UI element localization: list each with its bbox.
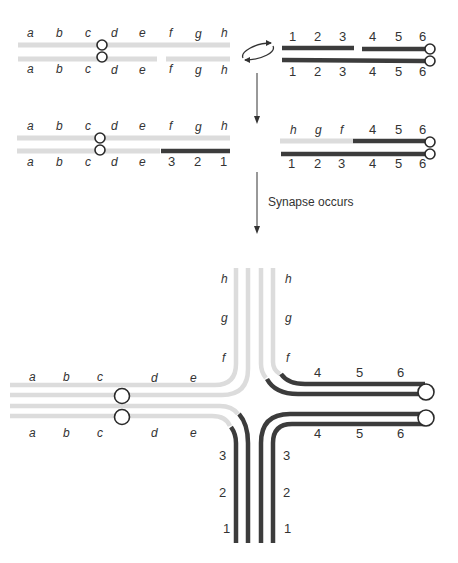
gene-label: f — [340, 123, 345, 137]
gene-label: 1 — [220, 154, 227, 169]
gene-label: b — [56, 155, 63, 169]
gene-label: 3 — [339, 64, 346, 79]
chromosome-strand — [261, 268, 266, 378]
stage3-synapsis-cross — [10, 268, 434, 543]
gene-label: e — [139, 119, 146, 133]
centromere-icon — [95, 145, 105, 155]
translocation-synapse-diagram: a b c d e f g h a b c d e f g h — [0, 0, 458, 563]
gene-label: 2 — [194, 154, 201, 169]
gene-label: e — [190, 426, 197, 440]
gene-label: h — [285, 272, 292, 286]
gene-label: a — [29, 370, 36, 384]
chromosome-strand — [273, 268, 280, 374]
gene-label: 5 — [356, 365, 363, 380]
gene-label: e — [139, 26, 146, 40]
gene-label: g — [195, 63, 202, 77]
gene-label: 6 — [419, 64, 426, 79]
gene-label: c — [85, 62, 91, 76]
gene-label: c — [85, 26, 91, 40]
stage1-left-chromosome-pair: a b c d e f g h a b c d e f g h — [18, 26, 230, 77]
gene-label: d — [111, 63, 118, 77]
gene-label: g — [195, 27, 202, 41]
gene-label: 5 — [395, 122, 402, 137]
stage2-left-chromosome-pair: a b c d e f g h a b c d e 3 2 1 — [17, 119, 230, 169]
chromosome-strand — [10, 268, 236, 385]
gene-label: 2 — [314, 156, 321, 171]
gene-label: f — [169, 26, 174, 40]
gene-label: 5 — [395, 156, 402, 171]
gene-label: 5 — [356, 426, 363, 441]
centromere-icon — [115, 410, 130, 425]
centromere-icon — [95, 133, 105, 143]
gene-label: b — [63, 370, 70, 384]
gene-label: c — [97, 426, 103, 440]
gene-label: g — [285, 311, 292, 325]
stage2-right-chromosome-pair: h g f 4 5 6 1 2 3 4 5 6 — [280, 122, 435, 171]
gene-label: 4 — [314, 426, 321, 441]
gene-label: 5 — [395, 29, 402, 44]
gene-label: c — [85, 119, 91, 133]
centromere-icon — [97, 52, 107, 62]
gene-label: e — [139, 63, 146, 77]
centromere-icon — [425, 137, 435, 147]
gene-label: b — [56, 119, 63, 133]
gene-label: 4 — [314, 365, 321, 380]
gene-label: 3 — [219, 448, 226, 463]
centromere-icon — [425, 56, 435, 66]
gene-label: a — [27, 26, 34, 40]
gene-label: 4 — [369, 64, 376, 79]
circular-exchange-arrows-icon — [243, 40, 274, 63]
gene-label: b — [63, 426, 70, 440]
chromosome-strand — [273, 424, 425, 543]
gene-label: 6 — [419, 122, 426, 137]
gene-label: 3 — [338, 156, 345, 171]
gene-label: h — [221, 272, 228, 286]
gene-label: g — [315, 123, 322, 137]
gene-label: a — [27, 155, 34, 169]
stage1-right-chromosome-pair: 1 2 3 4 5 6 1 2 3 4 5 6 — [282, 29, 435, 79]
gene-label: g — [221, 311, 228, 325]
centromere-icon — [425, 149, 435, 159]
down-arrow-icon — [254, 172, 260, 234]
centromere-icon — [418, 384, 434, 400]
gene-label: 2 — [283, 485, 290, 500]
chromosome-strand — [10, 268, 248, 395]
gene-label: 3 — [168, 154, 175, 169]
gene-label: 5 — [395, 64, 402, 79]
gene-label: 2 — [314, 29, 321, 44]
gene-label: 6 — [397, 365, 404, 380]
gene-label: g — [195, 120, 202, 134]
gene-label: f — [222, 351, 227, 365]
gene-label: c — [85, 155, 91, 169]
down-arrow-icon — [254, 73, 260, 124]
gene-label: a — [27, 119, 34, 133]
gene-label: f — [169, 119, 174, 133]
gene-label: h — [221, 26, 228, 40]
centromere-icon — [115, 389, 130, 404]
gene-label: e — [139, 155, 146, 169]
gene-label: c — [97, 370, 103, 384]
gene-label: 4 — [369, 156, 376, 171]
gene-label: h — [221, 119, 228, 133]
synapse-caption: Synapse occurs — [268, 195, 353, 209]
gene-label: d — [151, 426, 158, 440]
gene-label: d — [151, 371, 158, 385]
gene-label: 1 — [284, 521, 291, 536]
gene-label: a — [29, 426, 36, 440]
gene-label: 4 — [369, 122, 376, 137]
gene-label: 3 — [283, 448, 290, 463]
gene-label: 6 — [419, 29, 426, 44]
chromosome-strand — [231, 427, 236, 543]
centromere-icon — [425, 44, 435, 54]
centromere-icon — [418, 410, 434, 426]
gene-label: 1 — [223, 521, 230, 536]
gene-label: b — [56, 62, 63, 76]
gene-label: e — [190, 371, 197, 385]
gene-label: d — [111, 155, 118, 169]
gene-label: h — [221, 63, 228, 77]
gene-label: 1 — [289, 64, 296, 79]
gene-label: 1 — [288, 156, 295, 171]
chromosome-strand — [282, 60, 425, 61]
gene-label: f — [286, 351, 291, 365]
gene-label: d — [111, 26, 118, 40]
